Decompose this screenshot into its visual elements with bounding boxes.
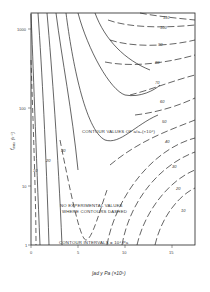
contour-label-10: 10	[181, 208, 186, 213]
contour-label-70: 70	[155, 80, 160, 85]
contour-label-110: 110	[163, 15, 170, 20]
svg-text:fmax(s⁻¹): fmax(s⁻¹)	[9, 131, 16, 150]
contour-label-50: 50	[162, 119, 167, 124]
y-tick-10: 10	[22, 184, 27, 189]
contour-label-20: 20	[175, 186, 181, 191]
contour-label-90: 90	[158, 42, 163, 47]
x-axis-title: ∫ad y Pa (×10⁵)	[91, 270, 126, 276]
annotation-contour-intervals: CONTOUR INTERVALS = 10⁶ Pa	[59, 240, 129, 245]
contour-label-left-20: 20	[45, 158, 51, 163]
contour-chart: 1000 100 10 1 0 5 10 15 ∫ad y Pa (×10⁵) …	[0, 0, 210, 292]
contour-label-100: 100	[160, 25, 167, 30]
annotation-no-experimental-1: NO EXPERIMENTAL VALUES	[60, 203, 123, 208]
x-axis	[31, 245, 172, 248]
annotation-contour-values: CONTOUR VALUES OF a/a₀(×10⁶)	[82, 129, 155, 134]
x-tick-10: 10	[122, 250, 127, 255]
x-tick-5: 5	[77, 250, 80, 255]
annotation-no-experimental-2: WHERE CONTOURS DASHED	[62, 209, 127, 214]
y-axis-title: fmax(s⁻¹)	[9, 131, 16, 150]
left-contours-dashed	[31, 60, 36, 245]
x-tick-15: 15	[169, 250, 174, 255]
contour-label-80: 80	[155, 60, 160, 65]
x-tick-0: 0	[30, 250, 33, 255]
contour-label-60: 60	[160, 99, 165, 104]
contour-label-40: 40	[165, 139, 170, 144]
y-tick-100: 100	[19, 106, 26, 111]
u-contours	[66, 13, 160, 141]
contour-label-30: 30	[172, 164, 177, 169]
contour-label-left-10: 10	[33, 168, 38, 173]
y-tick-1000: 1000	[17, 27, 27, 32]
contour-label-left-30: 30	[61, 148, 66, 153]
y-tick-1: 1	[25, 243, 28, 248]
u-contours-dashed	[60, 140, 107, 240]
y-axis	[28, 29, 31, 245]
